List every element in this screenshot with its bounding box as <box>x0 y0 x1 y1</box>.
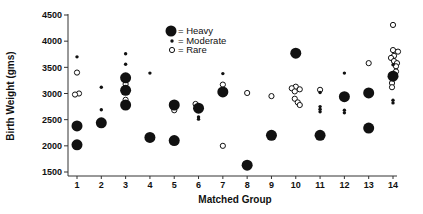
data-point-heavy <box>120 72 131 83</box>
x-tick-label: 3 <box>123 180 128 190</box>
x-tick-label: 7 <box>220 180 225 190</box>
x-tick-label: 2 <box>99 180 104 190</box>
x-tick-label: 9 <box>269 180 274 190</box>
data-point-moderate <box>100 108 103 111</box>
data-point-rare <box>74 70 79 75</box>
x-tick-label: 13 <box>364 180 374 190</box>
y-axis-title: Birth Weight (gms) <box>5 51 16 140</box>
data-point-rare <box>389 85 394 90</box>
data-point-moderate <box>124 52 127 55</box>
data-point-rare <box>292 89 297 94</box>
x-tick-label: 5 <box>172 180 177 190</box>
data-point-heavy <box>363 87 374 98</box>
x-tick-label: 11 <box>315 180 325 190</box>
data-point-rare <box>297 87 302 92</box>
data-point-rare <box>297 102 302 107</box>
x-tick-label: 1 <box>74 180 79 190</box>
data-point-rare <box>366 61 371 66</box>
data-point-heavy <box>290 48 301 59</box>
data-point-moderate <box>148 71 151 74</box>
y-tick-label: 4500 <box>42 10 62 20</box>
data-point-rare <box>269 94 274 99</box>
series-rare <box>72 22 400 148</box>
y-tick-label: 3500 <box>42 63 62 73</box>
data-point-heavy <box>217 86 228 97</box>
data-point-moderate <box>100 86 103 89</box>
x-tick-label: 6 <box>196 180 201 190</box>
data-point-heavy <box>96 117 107 128</box>
legend: = Heavy= Moderate= Rare <box>166 25 227 55</box>
series-heavy <box>72 48 399 171</box>
y-tick-label: 2000 <box>42 141 62 151</box>
x-tick-label: 14 <box>388 180 398 190</box>
data-point-moderate <box>318 110 321 113</box>
legend-marker-heavy <box>166 26 177 37</box>
data-point-rare <box>390 22 395 27</box>
x-axis: 1234567891011121314 <box>68 176 398 190</box>
data-point-heavy <box>266 130 277 141</box>
y-tick-label: 1500 <box>42 167 62 177</box>
legend-marker-rare <box>169 47 174 52</box>
data-point-moderate <box>343 111 346 114</box>
data-point-rare <box>72 92 77 97</box>
data-point-moderate <box>391 63 394 66</box>
x-axis-title: Matched Group <box>198 194 271 205</box>
data-point-heavy <box>120 85 131 96</box>
data-point-heavy <box>120 100 131 111</box>
legend-label-rare: = Rare <box>178 44 207 55</box>
x-tick-label: 12 <box>339 180 349 190</box>
data-point-heavy <box>193 103 204 114</box>
data-point-heavy <box>242 160 253 171</box>
data-point-moderate <box>221 72 224 75</box>
legend-marker-moderate <box>170 39 173 42</box>
data-point-rare <box>220 143 225 148</box>
data-point-rare <box>395 49 400 54</box>
data-point-heavy <box>72 139 83 150</box>
data-point-moderate <box>124 62 127 65</box>
data-point-moderate <box>391 101 394 104</box>
data-points <box>72 22 401 170</box>
data-point-moderate <box>343 71 346 74</box>
data-point-rare <box>390 47 395 52</box>
y-axis: 1500200025003000350040004500 <box>42 10 68 177</box>
data-point-moderate <box>318 91 321 94</box>
x-tick-label: 10 <box>291 180 301 190</box>
data-point-moderate <box>197 117 200 120</box>
data-point-moderate <box>391 71 394 74</box>
data-point-heavy <box>72 120 83 131</box>
y-tick-label: 2500 <box>42 115 62 125</box>
birth-weight-scatter-chart: 1500200025003000350040004500 12345678910… <box>0 0 423 214</box>
data-point-heavy <box>339 91 350 102</box>
data-point-heavy <box>169 100 180 111</box>
x-tick-label: 8 <box>245 180 250 190</box>
y-tick-label: 3000 <box>42 89 62 99</box>
data-point-heavy <box>169 135 180 146</box>
data-point-heavy <box>144 132 155 143</box>
data-point-heavy <box>363 123 374 134</box>
data-point-rare <box>245 90 250 95</box>
data-point-heavy <box>315 130 326 141</box>
data-point-rare <box>220 82 225 87</box>
y-tick-label: 4000 <box>42 36 62 46</box>
data-point-moderate <box>75 55 78 58</box>
x-tick-label: 4 <box>147 180 152 190</box>
